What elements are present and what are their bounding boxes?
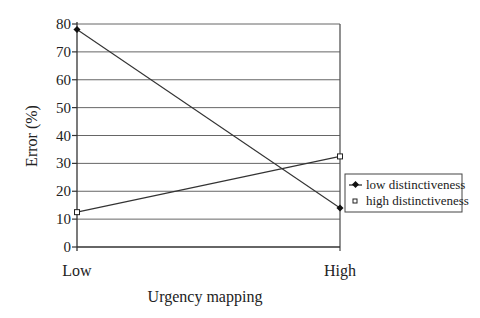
legend-item-high-distinctiveness: high distinctiveness: [353, 193, 469, 208]
data-point-marker: [338, 154, 343, 159]
y-axis-ticks: 01020304050607080: [56, 16, 77, 255]
legend-item-low-distinctiveness: low distinctiveness: [349, 177, 465, 192]
x-axis-title: Urgency mapping: [148, 288, 263, 306]
y-tick-label: 60: [56, 72, 71, 88]
x-tick-label: Low: [62, 262, 92, 279]
data-series: [73, 26, 343, 215]
legend-label: low distinctiveness: [366, 177, 465, 192]
open-square-icon: [353, 199, 357, 203]
series-line: [77, 156, 340, 212]
y-tick-label: 0: [64, 239, 72, 255]
y-tick-label: 40: [56, 128, 71, 144]
series-line: [77, 30, 340, 208]
y-tick-label: 80: [56, 16, 71, 32]
x-tick-label: High: [324, 262, 356, 280]
legend-label: high distinctiveness: [366, 193, 469, 208]
line-chart: 01020304050607080 LowHigh Error (%) Urge…: [0, 0, 480, 318]
y-tick-label: 20: [56, 183, 71, 199]
y-tick-label: 30: [56, 155, 71, 171]
data-point-marker: [75, 210, 80, 215]
x-axis-ticks: LowHigh: [62, 262, 356, 280]
y-tick-label: 70: [56, 44, 71, 60]
gridlines: [77, 24, 340, 219]
data-point-marker: [336, 204, 343, 211]
y-axis-title: Error (%): [23, 105, 41, 167]
legend: low distinctiveness high distinctiveness: [345, 174, 469, 212]
y-tick-label: 50: [56, 100, 71, 116]
data-point-marker: [73, 26, 80, 33]
y-tick-label: 10: [56, 211, 71, 227]
